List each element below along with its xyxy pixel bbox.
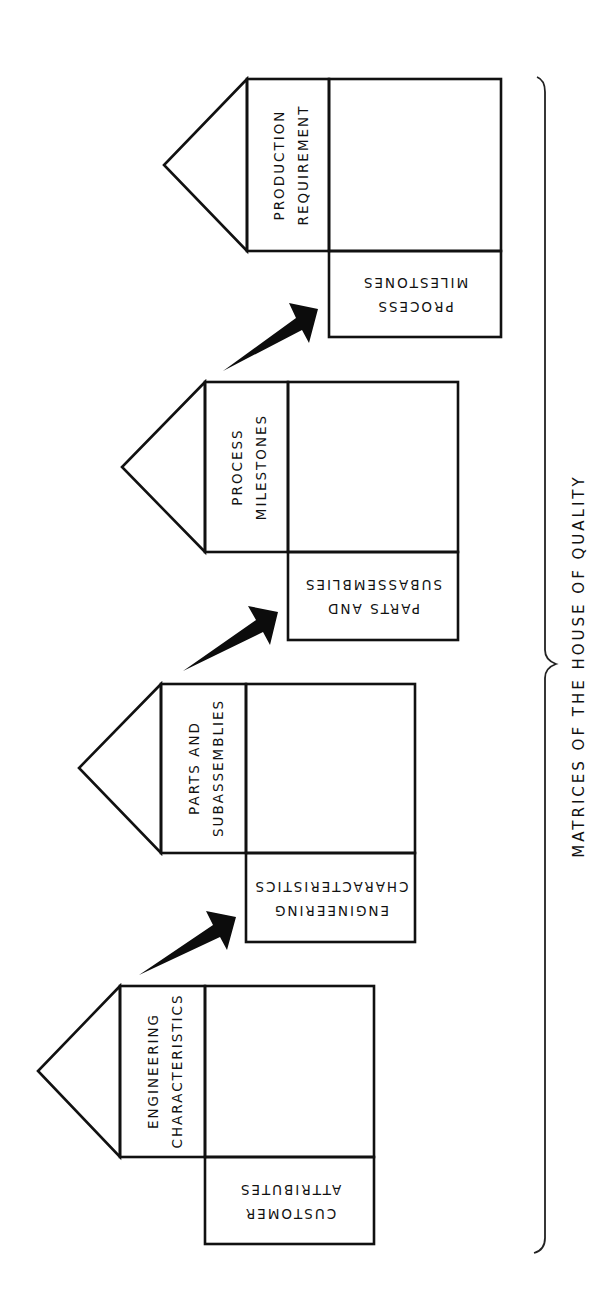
- header-cell: [120, 986, 205, 1157]
- arrow-right-up-icon: [183, 606, 278, 671]
- header-cell: [161, 684, 246, 853]
- diagram-caption: MATRICES OF THE HOUSE OF QUALITY: [570, 474, 588, 857]
- house-3: PROCESS MILESTONES PARTS AND SUBASSEMBLI…: [122, 382, 458, 640]
- header-label-line2: MILESTONES: [253, 414, 269, 520]
- house-4: PRODUCTION REQUIREMENT PROCESS MILESTONE…: [164, 79, 501, 337]
- header-label-line2: REQUIREMENT: [295, 105, 311, 226]
- roof-triangle: [79, 684, 161, 853]
- header-label-line1: ENGINEERING: [145, 1013, 161, 1129]
- roof-triangle: [38, 986, 120, 1157]
- header-label-line1: PROCESS: [229, 428, 245, 505]
- side-cell: [288, 552, 458, 640]
- roof-triangle: [164, 79, 247, 251]
- relationship-matrix: [205, 986, 374, 1157]
- side-label-line2: ATTRIBUTES: [239, 1182, 341, 1198]
- header-label-line2: SUBASSEMBLIES: [210, 699, 226, 837]
- roof-triangle: [122, 382, 205, 552]
- side-cell: [246, 853, 415, 942]
- side-label-line1: PARTS AND: [326, 601, 420, 617]
- header-label-line1: PARTS AND: [186, 721, 202, 815]
- relationship-matrix: [329, 79, 501, 251]
- header-cell: [247, 79, 329, 251]
- curly-brace: [534, 77, 556, 1253]
- side-label-line2: MILESTONES: [362, 275, 468, 291]
- side-label-line1: ENGINEERING: [273, 903, 389, 919]
- header-label-line2: CHARACTERISTICS: [169, 993, 185, 1148]
- house-1: ENGINEERING CHARACTERISTICS CUSTOMER ATT…: [38, 986, 374, 1244]
- arrow-right-up-icon: [139, 911, 236, 975]
- relationship-matrix: [288, 382, 458, 552]
- relationship-matrix: [246, 684, 415, 853]
- house-2: PARTS AND SUBASSEMBLIES ENGINEERING CHAR…: [79, 684, 415, 942]
- header-cell: [205, 382, 288, 552]
- house-of-quality-diagram: PRODUCTION REQUIREMENT PROCESS MILESTONE…: [0, 0, 600, 1310]
- side-label-line2: CHARACTERISTICS: [253, 879, 408, 895]
- header-label-line1: PRODUCTION: [271, 110, 287, 221]
- side-label-line2: SUBASSEMBLIES: [304, 577, 442, 593]
- side-label-line1: PROCESS: [376, 299, 453, 315]
- side-cell: [205, 1157, 374, 1244]
- side-label-line1: CUSTOMER: [244, 1206, 336, 1222]
- side-cell: [329, 251, 501, 337]
- arrow-right-up-icon: [223, 303, 318, 371]
